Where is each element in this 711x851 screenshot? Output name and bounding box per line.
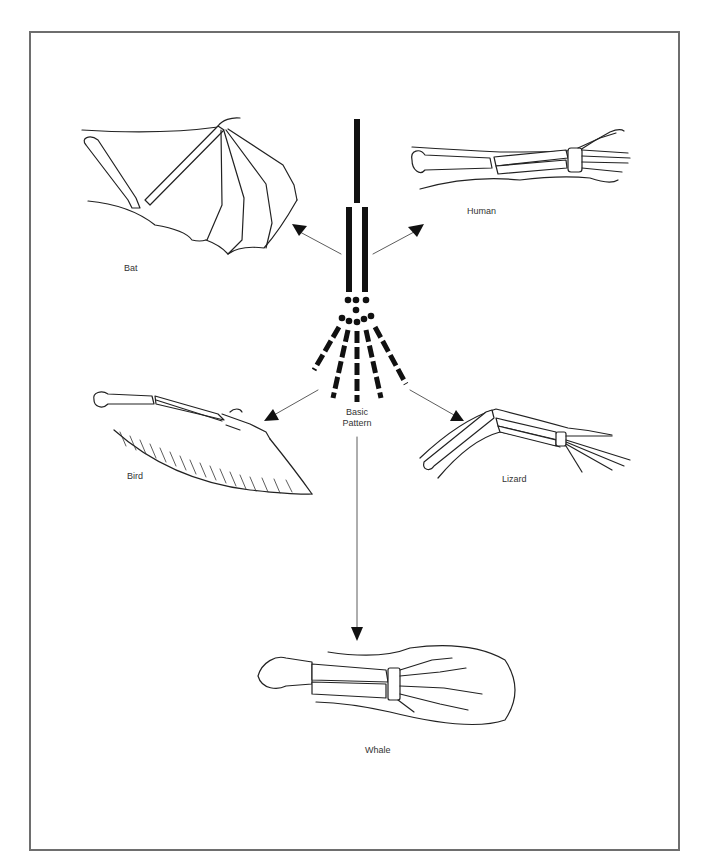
lizard-label: Lizard — [502, 474, 527, 485]
bat-wing-illustration — [82, 118, 297, 254]
whale-digits — [398, 658, 482, 712]
carpal-dots — [339, 297, 375, 326]
human-arm-illustration — [412, 130, 630, 189]
whale-carpals — [388, 668, 400, 700]
arrow-to-lizard — [410, 390, 464, 421]
whale-label: Whale — [365, 745, 391, 756]
basic-pattern-label-line1: Basic — [337, 407, 377, 418]
basic-pattern-label-line2: Pattern — [337, 418, 377, 429]
bird-feather-lines — [120, 432, 292, 493]
hand-bones — [568, 133, 630, 172]
arrow-to-human — [373, 224, 424, 254]
basic-pattern-diagram — [314, 119, 406, 402]
whale-flipper-illustration — [258, 646, 515, 725]
bat-label: Bat — [124, 263, 138, 274]
digit-segments — [314, 327, 406, 402]
arrow-to-whale — [351, 437, 363, 641]
basic-pattern-label: Basic Pattern — [337, 407, 377, 429]
humerus-bar — [354, 119, 360, 203]
arrow-to-bat — [292, 224, 341, 254]
arrow-to-bird — [264, 390, 318, 421]
lizard-digits — [556, 432, 630, 472]
bird-label: Bird — [127, 471, 143, 482]
radius-bar — [346, 207, 352, 292]
human-label: Human — [467, 206, 496, 217]
ulna-bar — [362, 207, 368, 292]
